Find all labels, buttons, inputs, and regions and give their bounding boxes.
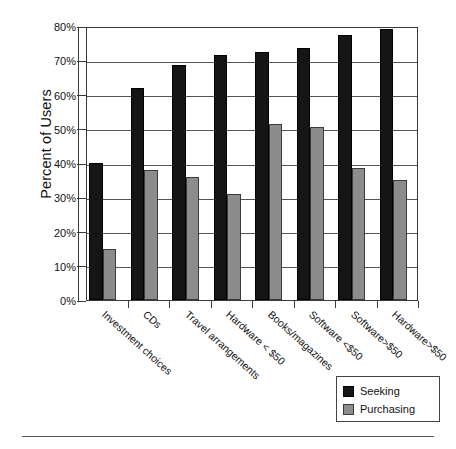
bar-purchasing bbox=[393, 180, 407, 300]
y-tick-mark bbox=[77, 266, 86, 267]
y-tick-mark bbox=[77, 232, 86, 233]
y-tick-label: 10% bbox=[24, 262, 76, 272]
y-tick-mark bbox=[77, 164, 86, 165]
y-tick-label: 70% bbox=[24, 56, 76, 66]
x-axis-label: Travel arrangements bbox=[183, 308, 263, 381]
y-tick-label: 20% bbox=[24, 228, 76, 238]
bar-purchasing bbox=[186, 177, 200, 300]
bar-seeking bbox=[89, 163, 103, 300]
y-tick-label: 60% bbox=[24, 91, 76, 101]
y-tick-mark bbox=[77, 95, 86, 96]
x-tick-mark bbox=[211, 301, 212, 308]
y-tick-mark bbox=[77, 27, 86, 28]
y-tick-mark bbox=[77, 301, 86, 302]
y-tick-label: 80% bbox=[24, 22, 76, 32]
bar-purchasing bbox=[144, 170, 158, 300]
y-tick-mark bbox=[77, 198, 86, 199]
legend-swatch-seek bbox=[343, 386, 354, 397]
bar-seeking bbox=[297, 48, 311, 300]
bar-purchasing bbox=[310, 127, 324, 300]
bar-purchasing bbox=[269, 124, 283, 300]
bar-seeking bbox=[380, 29, 394, 300]
x-tick-mark bbox=[294, 301, 295, 308]
y-tick-label: 0% bbox=[24, 296, 76, 306]
legend-swatch-purch bbox=[343, 404, 354, 415]
x-tick-mark bbox=[169, 301, 170, 308]
x-tick-mark bbox=[418, 301, 419, 308]
bar-seeking bbox=[131, 88, 145, 300]
x-tick-mark bbox=[335, 301, 336, 308]
x-tick-mark bbox=[377, 301, 378, 308]
legend-label: Purchasing bbox=[360, 403, 415, 415]
bar-series-container bbox=[87, 28, 417, 300]
bar-seeking bbox=[338, 35, 352, 300]
chart-legend: SeekingPurchasing bbox=[336, 376, 440, 422]
bar-seeking bbox=[255, 52, 269, 300]
bar-purchasing bbox=[352, 168, 366, 300]
plot-area bbox=[86, 27, 418, 301]
bar-purchasing bbox=[103, 249, 117, 300]
footer-rule bbox=[22, 436, 434, 437]
legend-item: Seeking bbox=[343, 382, 439, 400]
y-tick-label: 30% bbox=[24, 193, 76, 203]
y-tick-label: 40% bbox=[24, 159, 76, 169]
bar-seeking bbox=[214, 55, 228, 300]
x-tick-mark bbox=[128, 301, 129, 308]
x-tick-mark bbox=[252, 301, 253, 308]
bar-purchasing bbox=[227, 194, 241, 300]
y-axis-line bbox=[78, 27, 79, 302]
x-axis-label: CDs bbox=[141, 308, 164, 331]
bar-chart-figure: Percent of Users 0%10%20%30%40%50%60%70%… bbox=[0, 0, 456, 449]
y-axis-title: Percent of Users bbox=[38, 54, 54, 234]
legend-item: Purchasing bbox=[343, 400, 439, 418]
legend-label: Seeking bbox=[360, 385, 400, 397]
y-tick-label: 50% bbox=[24, 125, 76, 135]
x-axis-label: Investment choices bbox=[100, 308, 175, 377]
bar-seeking bbox=[172, 65, 186, 300]
y-tick-mark bbox=[77, 129, 86, 130]
y-tick-mark bbox=[77, 61, 86, 62]
